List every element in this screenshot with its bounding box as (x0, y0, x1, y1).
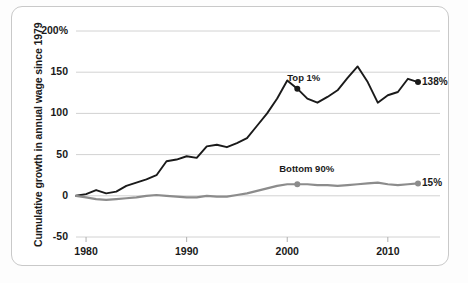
series-marker-0 (294, 86, 300, 92)
end-value-label-bottom-90-percent: 15% (422, 177, 442, 188)
y-tick-label-2: 100 (16, 106, 68, 118)
series-endpoint-0 (415, 79, 421, 85)
series-line-0 (76, 66, 418, 195)
gridlines (76, 31, 440, 237)
series-marker-1 (294, 181, 300, 187)
x-tick-label-1: 1990 (157, 245, 217, 257)
x-tick-label-2: 2000 (257, 245, 317, 257)
y-tick-label-3: 50 (16, 148, 68, 160)
data-series-lines (76, 66, 418, 199)
chart-figure: Cumulative growth in annual wage since 1… (0, 0, 468, 283)
end-value-label-top-1-percent: 138% (422, 76, 448, 87)
x-tick-marks (86, 237, 388, 242)
x-tick-label-0: 1980 (56, 245, 116, 257)
series-label-top-1-percent: Top 1% (287, 72, 320, 83)
y-tick-label-5: -50 (16, 230, 68, 242)
y-tick-label-1: 150 (16, 65, 68, 77)
series-endpoint-1 (415, 180, 421, 186)
y-tick-label-0: 200% (16, 24, 68, 36)
chart-plot-area (0, 0, 468, 283)
y-tick-label-4: 0 (16, 189, 68, 201)
series-label-bottom-90-percent: Bottom 90% (279, 163, 334, 174)
x-tick-label-3: 2010 (358, 245, 418, 257)
